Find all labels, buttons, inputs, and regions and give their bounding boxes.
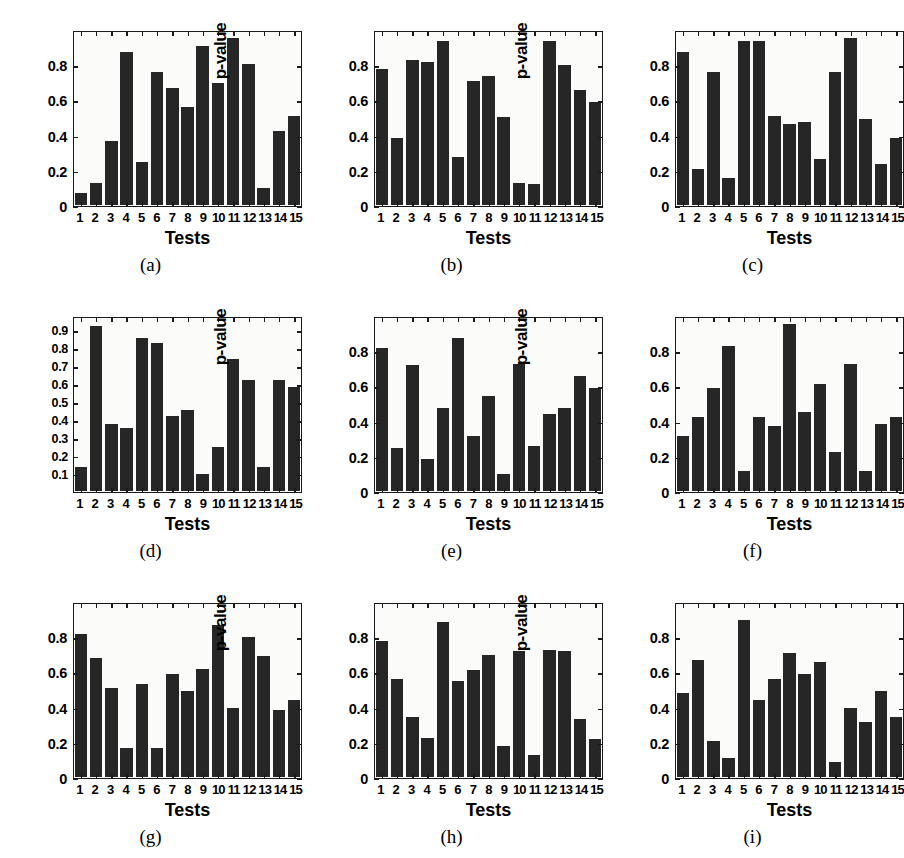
bar [677,52,690,206]
x-tick-mark-top [835,31,836,36]
x-tick-mark-top [382,317,383,322]
x-tick-mark-top [698,317,699,322]
bar [558,65,571,205]
x-tick-mark-bottom [698,202,699,207]
bar [814,662,827,778]
bar [707,388,720,492]
x-axis-title: Tests [675,228,904,249]
y-tick-label: 0.2 [349,164,368,180]
x-tick-label: 6 [150,496,163,511]
x-tick-mark-top [790,31,791,36]
x-tick-mark-bottom [504,488,505,493]
x-tick-mark-top [550,31,551,36]
x-tick-label: 4 [420,210,433,225]
x-tick-label: 3 [405,210,418,225]
bar [151,748,164,777]
x-tick-mark-bottom [774,774,775,779]
x-tick-mark-bottom [866,488,867,493]
bar-series [376,33,602,206]
x-tick-mark-bottom [111,774,112,779]
y-tick-mark-right [899,709,904,710]
bar [574,90,587,206]
x-tick-label: 11 [829,782,842,797]
x-tick-mark-bottom [81,488,82,493]
y-tick-mark [73,207,78,208]
x-tick-mark-bottom [81,774,82,779]
bar-series [75,33,301,206]
x-tick-mark-bottom [279,488,280,493]
x-tick-mark-bottom [203,202,204,207]
y-tick-mark [374,638,379,639]
x-tick-mark-top [595,603,596,608]
x-tick-mark-bottom [279,774,280,779]
y-tick-mark [73,421,78,422]
bar [844,364,857,492]
x-tick-mark-bottom [565,774,566,779]
x-tick-label: 2 [690,782,703,797]
bar [406,60,419,205]
x-tick-label: 9 [799,496,812,511]
x-tick-mark-top [580,31,581,36]
x-tick-mark-bottom [458,774,459,779]
x-tick-mark-bottom [172,202,173,207]
x-tick-mark-top [805,317,806,322]
x-tick-mark-top [744,31,745,36]
y-tick-mark [73,403,78,404]
y-tick-mark [73,779,78,780]
x-tick-label: 11 [528,496,541,511]
x-tick-mark-bottom [519,202,520,207]
x-tick-mark-bottom [565,488,566,493]
bar [166,88,179,206]
x-tick-mark-top [203,603,204,608]
x-tick-mark-top [881,31,882,36]
x-tick-mark-bottom [397,774,398,779]
x-tick-mark-bottom [534,774,535,779]
bar [452,681,465,778]
x-axis-tick-labels: 123456789101112131415 [73,496,302,511]
bar [196,669,209,778]
y-tick-label: 0.6 [650,665,669,681]
x-axis-tick-labels: 123456789101112131415 [374,782,603,797]
x-tick-mark-bottom [96,488,97,493]
x-tick-mark-top [565,31,566,36]
y-tick-label: 0 [661,199,669,215]
x-tick-mark-bottom [790,774,791,779]
bar [105,688,118,778]
bar [875,691,888,777]
y-tick-label: 0.4 [349,701,368,717]
bar [257,656,270,777]
panel-caption: (a) [0,254,301,276]
x-tick-mark-top [157,317,158,322]
x-tick-mark-top [580,317,581,322]
plot-area: 00.20.40.60.8 [374,31,603,207]
bar [543,41,556,205]
x-tick-mark-bottom [881,774,882,779]
bar [859,722,872,777]
y-tick-mark [374,744,379,745]
x-tick-mark-bottom [203,774,204,779]
x-tick-mark-bottom [713,488,714,493]
bar [677,693,690,778]
x-axis-title: Tests [374,228,603,249]
x-tick-mark-bottom [188,774,189,779]
x-tick-mark-bottom [397,488,398,493]
bar [890,417,903,491]
x-axis-tick-labels: 123456789101112131415 [675,496,904,511]
x-tick-label: 8 [181,782,194,797]
x-tick-mark-bottom [896,488,897,493]
bar [406,717,419,777]
y-tick-mark [675,352,680,353]
bar [738,41,751,205]
x-tick-mark-top [157,603,158,608]
x-tick-mark-bottom [851,774,852,779]
x-tick-mark-top [172,31,173,36]
bar [467,670,480,777]
x-tick-mark-bottom [126,774,127,779]
x-tick-mark-top [397,317,398,322]
y-tick-mark-right [899,101,904,102]
x-tick-label: 3 [104,210,117,225]
x-tick-mark-top [81,31,82,36]
x-tick-mark-top [851,31,852,36]
x-tick-mark-top [412,317,413,322]
